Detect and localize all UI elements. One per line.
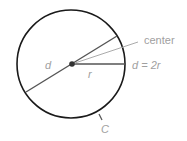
center-pointer-line [72,42,138,64]
diameter-label: d [45,59,52,71]
formula-label: d = 2r [132,59,162,71]
radius-label: r [88,68,93,80]
center-dot [69,61,75,67]
circumference-tick [99,114,102,120]
circle-diagram: d r center d = 2r C [0,0,187,141]
circumference-label: C [101,123,109,135]
center-label: center [144,34,175,46]
